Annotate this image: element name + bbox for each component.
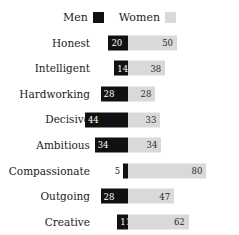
chart-row: Hardworking2828 [0, 81, 239, 107]
category-label: Honest [0, 38, 97, 49]
bar-men: 14 [114, 61, 128, 76]
category-label: Intelligent [0, 63, 97, 74]
legend-label-women: Women [119, 12, 160, 23]
row-bars: 3434 [97, 132, 239, 158]
bar-value-women: 62 [174, 218, 185, 227]
bar-men: 34 [95, 138, 128, 153]
bar-women: 47 [128, 189, 174, 204]
bar-women: 28 [128, 86, 155, 101]
diverging-bar-chart: Men Women Honest2050Intelligent1438Hardw… [0, 0, 239, 235]
bar-women: 62 [128, 214, 189, 229]
category-label: Ambitious [0, 140, 97, 151]
legend-label-men: Men [63, 12, 88, 23]
chart-row: Decisive4433 [0, 107, 239, 133]
row-bars: 4433 [97, 107, 239, 133]
bar-men: 20 [108, 35, 128, 50]
bar-value-men: 34 [98, 141, 109, 150]
bar-value-men: 14 [117, 64, 128, 73]
row-bars: 1438 [97, 56, 239, 82]
bar-value-men: 44 [88, 115, 99, 124]
bar-value-women: 47 [159, 192, 170, 201]
bar-men: 28 [101, 189, 128, 204]
bar-value-women: 28 [141, 90, 152, 99]
chart-row: Ambitious3434 [0, 132, 239, 158]
bar-value-women: 34 [146, 141, 157, 150]
row-bars: 2847 [97, 184, 239, 210]
legend-swatch-women [165, 12, 176, 23]
legend-entry-women: Women [119, 12, 176, 23]
bar-women: 33 [128, 112, 160, 127]
row-bars: 2050 [97, 30, 239, 56]
legend-swatch-men [93, 12, 104, 23]
bar-women: 38 [128, 61, 165, 76]
category-label: Creative [0, 217, 97, 228]
chart-row: Outgoing2847 [0, 184, 239, 210]
chart-row: Honest2050 [0, 30, 239, 56]
chart-row: Compassionate580 [0, 158, 239, 184]
bar-value-men: 20 [111, 39, 122, 48]
chart-row: Creative1162 [0, 209, 239, 235]
category-label: Compassionate [0, 166, 97, 177]
row-bars: 580 [97, 158, 239, 184]
bar-value-women: 38 [150, 64, 161, 73]
bar-value-men: 28 [104, 90, 115, 99]
chart-legend: Men Women [0, 8, 239, 26]
bar-value-women: 33 [146, 115, 157, 124]
category-label: Hardworking [0, 89, 97, 100]
bar-value-men: 5 [115, 167, 120, 176]
row-bars: 1162 [97, 209, 239, 235]
legend-entry-men: Men [63, 12, 104, 23]
bar-women: 80 [128, 163, 206, 178]
category-label: Decisive [0, 114, 97, 125]
chart-plot-area: Honest2050Intelligent1438Hardworking2828… [0, 30, 239, 235]
bar-value-women: 50 [162, 39, 173, 48]
bar-men: 44 [85, 112, 128, 127]
row-bars: 2828 [97, 81, 239, 107]
bar-men: 28 [101, 86, 128, 101]
category-label: Outgoing [0, 191, 97, 202]
bar-women: 50 [128, 35, 177, 50]
bar-value-women: 80 [192, 167, 203, 176]
bar-value-men: 28 [104, 192, 115, 201]
chart-row: Intelligent1438 [0, 56, 239, 82]
bar-women: 34 [128, 138, 161, 153]
bar-men: 11 [117, 214, 128, 229]
